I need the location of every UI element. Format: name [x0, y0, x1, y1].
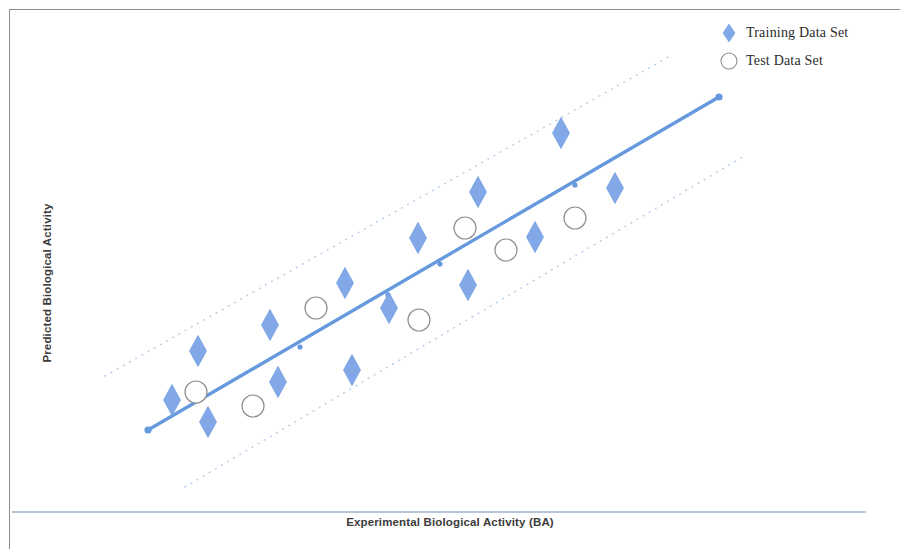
training-data-point — [337, 268, 354, 299]
test-data-point — [564, 207, 586, 229]
training-data-point — [344, 355, 361, 386]
chart-legend: Training Data Set Test Data Set — [716, 19, 901, 75]
y-axis-title: Predicted Biological Activity — [41, 153, 53, 413]
training-data-point — [190, 336, 207, 367]
scatter-chart: Predicted Biological Activity Experiment… — [0, 0, 909, 554]
test-data-point — [408, 309, 430, 331]
trend-line-node — [572, 182, 577, 187]
training-data-point — [200, 407, 217, 438]
diamond-icon — [716, 22, 742, 44]
legend-label-test: Test Data Set — [742, 53, 823, 69]
training-data-point — [262, 310, 279, 341]
trend-line-end-marker — [715, 93, 722, 100]
legend-item-test: Test Data Set — [716, 47, 901, 75]
test-data-point — [305, 297, 327, 319]
trend-line-start-marker — [144, 426, 151, 433]
chart-canvas — [0, 0, 909, 554]
trend-line-path — [148, 97, 719, 430]
test-data-point — [495, 239, 517, 261]
training-data-point — [410, 223, 427, 254]
training-data-point — [470, 177, 487, 208]
training-data-point — [553, 118, 570, 149]
training-data-point — [460, 270, 477, 301]
test-data-point — [454, 217, 476, 239]
training-data-point — [607, 173, 624, 204]
x-axis-title: Experimental Biological Activity (BA) — [150, 516, 750, 528]
page-frame: Predicted Biological Activity Experiment… — [0, 0, 909, 554]
test-data-point — [242, 395, 264, 417]
trend-line — [144, 93, 722, 433]
trend-line-node — [437, 261, 442, 266]
trend-line-node — [297, 344, 302, 349]
series-training-data-set — [164, 118, 624, 438]
training-data-point — [381, 293, 398, 324]
training-data-point — [270, 367, 287, 398]
legend-label-training: Training Data Set — [742, 25, 848, 41]
circle-icon — [716, 50, 742, 72]
boundary-line-upper — [105, 55, 672, 376]
training-data-point — [527, 222, 544, 253]
legend-item-training: Training Data Set — [716, 19, 901, 47]
test-data-point — [185, 381, 207, 403]
